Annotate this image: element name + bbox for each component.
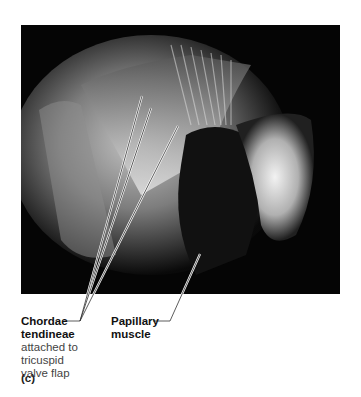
photo-illustration [21,25,340,294]
heart-interior-photo [21,25,340,294]
chordae-title-line1: Chordae [21,315,68,327]
papillary-muscle-label: Papillary muscle [111,315,159,341]
papillary-title-line1: Papillary [111,315,159,327]
papillary-title-line2: muscle [111,328,151,340]
panel-label: (c) [21,372,35,384]
chordae-title-line2: tendineae [21,328,75,340]
chordae-desc-1: attached to [21,341,78,353]
chordae-tendineae-label: Chordae tendineae attached to tricuspid … [21,315,78,380]
chordae-desc-2: tricuspid [21,354,64,366]
